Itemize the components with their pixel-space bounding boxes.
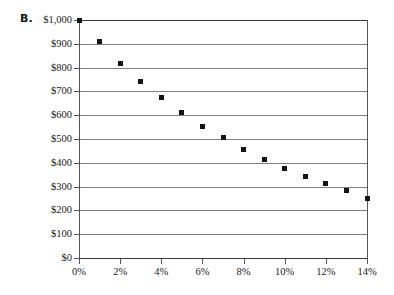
y-axis-label: $200 [14,205,72,216]
y-axis-label: $700 [14,86,72,97]
y-axis-label: $900 [14,39,72,50]
x-axis-label: 8% [224,266,264,277]
x-axis-label: 2% [100,266,140,277]
data-point [77,18,82,23]
data-point [241,147,246,152]
data-point [221,135,226,140]
x-axis-tick [285,259,286,264]
data-point [97,39,102,44]
data-point [159,95,164,100]
x-axis-tick [79,259,80,264]
x-axis-tick [367,259,368,264]
data-point [365,196,370,201]
plot-right-border [367,20,368,259]
data-point [282,166,287,171]
x-axis-tick [120,259,121,264]
gridline [79,258,367,259]
data-point [179,110,184,115]
y-axis-label: $600 [14,110,72,121]
y-axis-label: $400 [14,158,72,169]
data-point [344,188,349,193]
x-axis-label: 12% [306,266,346,277]
y-axis-label: $100 [14,229,72,240]
y-axis-label: $500 [14,134,72,145]
chart-figure: B. $0$100$200$300$400$500$600$700$800$90… [0,0,394,295]
x-axis-tick [161,259,162,264]
x-axis-label: 0% [59,266,99,277]
y-axis-label: $300 [14,182,72,193]
data-point [303,174,308,179]
y-axis-label: $800 [14,63,72,74]
x-axis-label: 10% [265,266,305,277]
data-point [200,124,205,129]
x-axis-tick [244,259,245,264]
plot-area [79,20,367,258]
data-point [138,79,143,84]
y-axis-label: $1,000 [14,15,72,26]
data-point [323,181,328,186]
x-axis-tick [202,259,203,264]
data-point [262,157,267,162]
x-axis-tick [326,259,327,264]
x-axis-label: 4% [141,266,181,277]
data-point [118,61,123,66]
y-axis-label: $0 [14,253,72,264]
x-axis-label: 6% [182,266,222,277]
x-axis-label: 14% [347,266,387,277]
